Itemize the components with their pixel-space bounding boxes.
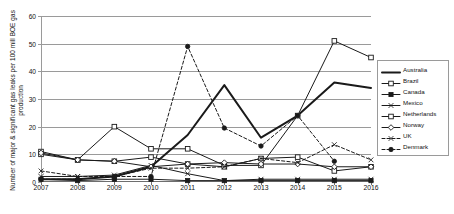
data-point-cross [369, 157, 374, 162]
data-point-filled-circle [112, 174, 116, 178]
data-point-open-square [295, 155, 300, 160]
data-point-filled-circle [185, 44, 189, 48]
legend-label: Brazil [401, 75, 418, 86]
data-point-open-square [149, 155, 154, 160]
y-tick-label: 50 [16, 40, 36, 47]
data-point-filled-circle [222, 126, 226, 130]
series-line [41, 153, 371, 167]
y-tick-label: 30 [16, 96, 36, 103]
x-tick-label: 2009 [97, 184, 131, 191]
x-tick-label: 2016 [354, 184, 388, 191]
legend-swatch-denmark [381, 141, 401, 152]
x-tick-label: 2010 [134, 184, 168, 191]
data-point-filled-circle [149, 174, 153, 178]
x-tick-label: 2015 [317, 184, 351, 191]
data-point-open-square [332, 39, 337, 44]
legend-label: Denmark [401, 141, 428, 152]
legend-item-denmark[interactable]: Denmark [381, 141, 446, 152]
data-point-filled-circle [389, 147, 393, 151]
series-australia [41, 82, 371, 179]
data-point-open-square [112, 124, 117, 129]
legend-label: Mexico [401, 97, 423, 108]
x-tick-label: 2014 [281, 184, 315, 191]
data-point-filled-circle [332, 159, 336, 163]
y-tick-label: 10 [16, 151, 36, 158]
x-tick-label: 2007 [24, 184, 58, 191]
data-point-filled-circle [259, 144, 263, 148]
data-point-open-square [185, 147, 190, 152]
plot-area: 0102030405060 20072008200920102011201220… [41, 16, 371, 182]
legend-item-uk[interactable]: UK [381, 130, 446, 141]
data-point-open-square [369, 55, 374, 60]
legend-swatch-norway [381, 119, 401, 130]
legend-item-brazil[interactable]: Brazil [381, 75, 446, 86]
y-tick-label: 60 [16, 13, 36, 20]
x-tick-label: 2012 [207, 184, 241, 191]
legend: AustraliaBrazilCanadaMexicoNetherlandsNo… [377, 60, 449, 156]
legend-swatch-uk [381, 130, 401, 141]
series-brazil [39, 39, 374, 168]
legend-label: Netherlands [401, 108, 436, 119]
chart-container: Number of major & significant gas leaks … [0, 0, 454, 214]
series-netherlands [39, 152, 374, 173]
series-line [41, 46, 334, 179]
legend-item-netherlands[interactable]: Netherlands [381, 108, 446, 119]
data-point-filled-circle [295, 113, 299, 117]
data-point-filled-square [389, 92, 393, 96]
series-layer [41, 16, 371, 182]
legend-item-mexico[interactable]: Mexico [381, 97, 446, 108]
x-tick-label: 2008 [61, 184, 95, 191]
x-tick-label: 2013 [244, 184, 278, 191]
legend-item-australia[interactable]: Australia [381, 64, 446, 75]
legend-swatch-brazil [381, 75, 401, 86]
series-line [41, 82, 371, 179]
data-point-cross [332, 142, 337, 147]
legend-item-norway[interactable]: Norway [381, 119, 446, 130]
legend-label: UK [401, 130, 412, 141]
legend-swatch-australia [381, 64, 401, 75]
y-tick-label: 40 [16, 68, 36, 75]
legend-swatch-canada [381, 86, 401, 97]
data-point-filled-square [186, 179, 190, 183]
legend-label: Norway [401, 119, 424, 130]
data-point-filled-circle [75, 177, 79, 181]
data-point-open-square [149, 147, 154, 152]
x-tick-label: 2011 [171, 184, 205, 191]
series-line [41, 41, 371, 165]
legend-label: Australia [401, 64, 427, 75]
legend-item-canada[interactable]: Canada [381, 86, 446, 97]
data-point-filled-circle [39, 177, 43, 181]
legend-swatch-netherlands [381, 108, 401, 119]
legend-swatch-mexico [381, 97, 401, 108]
legend-label: Canada [401, 86, 425, 97]
y-tick-label: 20 [16, 123, 36, 130]
